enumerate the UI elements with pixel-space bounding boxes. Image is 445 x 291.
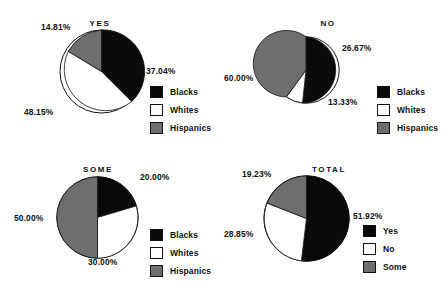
legend-label-blacks: Blacks [170,87,198,97]
pie-no-svg [272,36,340,104]
legend-swatch-black-icon [150,229,163,241]
legend-item-hispanics: Hispanics [150,263,211,279]
pct-label-total-yes: 51.92% [353,211,382,221]
legend-swatch-white-icon [150,247,163,259]
legend-label-some: Some [383,262,407,272]
pie-no [272,36,340,104]
pct-label-yes-hispanics: 14.81% [41,22,70,32]
legend-swatch-gray-icon [150,265,163,277]
pie-yes-svg [59,29,144,114]
legend-label-whites: Whites [170,105,198,115]
legend-item-no: No [363,241,407,257]
chart-title-no: NO [298,19,358,28]
pct-label-total-some: 19.23% [242,169,271,179]
legend-label-whites: Whites [170,248,198,258]
legend-swatch-gray-icon [363,261,376,273]
chart-title-some: SOME [68,165,128,174]
legend-label-whites: Whites [397,105,425,115]
legend-swatch-black-icon [363,225,376,237]
pct-label-some-blacks: 20.00% [140,172,169,182]
legend-item-whites: Whites [150,102,211,118]
legend-item-blacks: Blacks [150,84,211,100]
legend-some: Blacks Whites Hispanics [150,227,211,281]
legend-yes: Blacks Whites Hispanics [150,84,211,138]
legend-item-some: Some [363,259,407,275]
pie-total-slice-yes [301,176,349,261]
pct-label-no-whites: 13.33% [328,97,357,107]
chart-title-yes: YES [70,19,130,28]
legend-item-yes: Yes [363,223,407,239]
legend-label-no: No [383,244,395,254]
legend-item-blacks: Blacks [150,227,211,243]
pie-some [56,176,139,259]
legend-swatch-white-icon [363,243,376,255]
legend-label-blacks: Blacks [397,87,425,97]
legend-label-hispanics: Hispanics [397,123,438,133]
legend-label-hispanics: Hispanics [170,123,211,133]
legend-no: Blacks Whites Hispanics [377,84,438,138]
pie-chart-figure: YES 37.04% 48.15% 14.81% Blacks Whites [0,0,445,291]
legend-swatch-gray-icon [377,122,390,134]
chart-panel-yes: YES 37.04% 48.15% 14.81% Blacks Whites [0,0,222,146]
pct-label-some-hispanics: 50.00% [14,213,43,223]
legend-label-yes: Yes [383,226,398,236]
pct-label-some-whites: 30.00% [88,257,117,267]
legend-item-blacks: Blacks [377,84,438,100]
legend-item-hispanics: Hispanics [377,120,438,136]
legend-label-hispanics: Hispanics [170,266,211,276]
pie-total [263,175,350,262]
legend-swatch-white-icon [377,104,390,116]
chart-title-total: TOTAL [299,165,359,174]
legend-total: Yes No Some [363,223,407,277]
legend-swatch-white-icon [150,104,163,116]
pie-total-svg [263,175,350,262]
legend-item-hispanics: Hispanics [150,120,211,136]
pct-label-total-no: 28.85% [224,229,253,239]
chart-panel-some: SOME 20.00% 30.00% 50.00% Blacks White [0,145,222,291]
legend-item-whites: Whites [150,245,211,261]
pie-some-svg [56,176,139,259]
pie-no-slice-blacks [303,37,336,103]
pie-some-slice-hispanics [57,177,98,258]
pct-label-no-hispanics: 60.00% [224,73,253,83]
pct-label-yes-blacks: 37.04% [146,66,175,76]
legend-swatch-black-icon [150,86,163,98]
pct-label-yes-whites: 48.15% [24,107,53,117]
legend-item-whites: Whites [377,102,438,118]
legend-swatch-gray-icon [150,122,163,134]
chart-panel-total: TOTAL 51.92% 28.85% 19.23% Yes No [222,145,445,291]
pct-label-no-blacks: 26.67% [342,43,371,53]
legend-swatch-black-icon [377,86,390,98]
legend-label-blacks: Blacks [170,230,198,240]
pie-yes [59,29,144,114]
chart-panel-no: NO 26.67% 13.33% 60.00% Blacks Whites [222,0,445,146]
